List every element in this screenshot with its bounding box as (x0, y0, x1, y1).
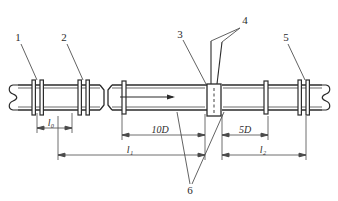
callout-label-5: 5 (283, 31, 289, 43)
dim-10D-arrow-left (122, 133, 129, 137)
dimension-l2: l₂ (222, 116, 306, 160)
dim-5D-arrow-right (261, 133, 268, 137)
dim-l0-arrow-right (65, 126, 72, 130)
callout-label-6: 6 (187, 184, 193, 196)
leader-line-1 (21, 44, 37, 80)
dim-l0-label: l₀ (48, 117, 55, 128)
callout-label-2: 2 (61, 31, 67, 43)
technical-diagram-canvas: 1 2 3 4 5 6 l₀ (0, 0, 338, 201)
callout-label-4: 4 (242, 14, 248, 26)
flange-plate-5a (298, 80, 301, 115)
dimension-lines: l₀ 10D l₁ (37, 113, 306, 160)
callout-label-1: 1 (15, 31, 21, 43)
flow-direction-arrow (120, 95, 175, 100)
flange-plate-5b (306, 80, 309, 115)
flange-plate-1b (40, 80, 43, 115)
dim-l1-label: l₁ (127, 144, 133, 155)
dim-5D-label: 5D (239, 124, 252, 135)
callout-numbers: 1 2 3 4 5 6 (15, 14, 289, 196)
dimension-l0: l₀ (37, 113, 72, 133)
meter-stem-right (217, 42, 222, 84)
dim-10D-label: 10D (151, 124, 169, 135)
dim-l2-label: l₂ (260, 144, 267, 155)
dim-5D-arrow-left (222, 133, 229, 137)
dimension-l1: l₁ (58, 116, 205, 160)
flange-plate-1a (32, 80, 35, 115)
pipe-installation-schematic: 1 2 3 4 5 6 l₀ (0, 0, 338, 201)
flange-plate-2b (86, 80, 89, 115)
leader-line-5 (288, 44, 305, 80)
flow-meter-body (207, 41, 222, 116)
pipe-coupling-right-taper (108, 85, 112, 110)
pipe-break-left-icon (9, 85, 18, 110)
pipe-break-right-icon (322, 85, 330, 110)
flange-plate-4 (264, 81, 268, 114)
leader-line-2 (67, 44, 83, 80)
dim-l2-arrow-right (299, 153, 306, 157)
leader-line-6b (192, 112, 224, 184)
leader-line-6a (177, 112, 190, 184)
leader-line-3 (183, 40, 206, 84)
flow-arrow-head (167, 95, 175, 100)
flange-plate-2a (78, 80, 81, 115)
dim-10D-arrow-right (198, 133, 205, 137)
pipe-coupling-left-taper (100, 85, 104, 110)
dim-l0-arrow-left (37, 126, 44, 130)
dim-l1-arrow-left (58, 153, 65, 157)
callout-label-3: 3 (177, 28, 183, 40)
dim-l2-arrow-left (222, 153, 229, 157)
callout-leaders (21, 28, 305, 184)
dimension-10D: 10D (122, 114, 205, 160)
